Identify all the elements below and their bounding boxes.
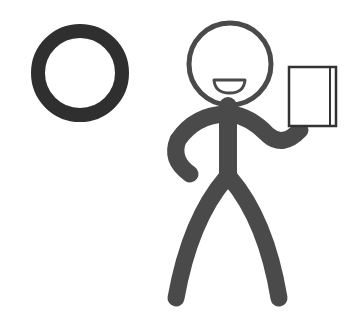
stick-figure [176,23,300,298]
ring-icon [38,31,122,115]
illustration-canvas [0,0,357,316]
right-leg [230,178,279,298]
left-arm [176,114,226,174]
book-icon [289,67,336,126]
mouth-icon [214,80,245,93]
illustration [0,0,357,316]
left-leg [176,178,226,298]
